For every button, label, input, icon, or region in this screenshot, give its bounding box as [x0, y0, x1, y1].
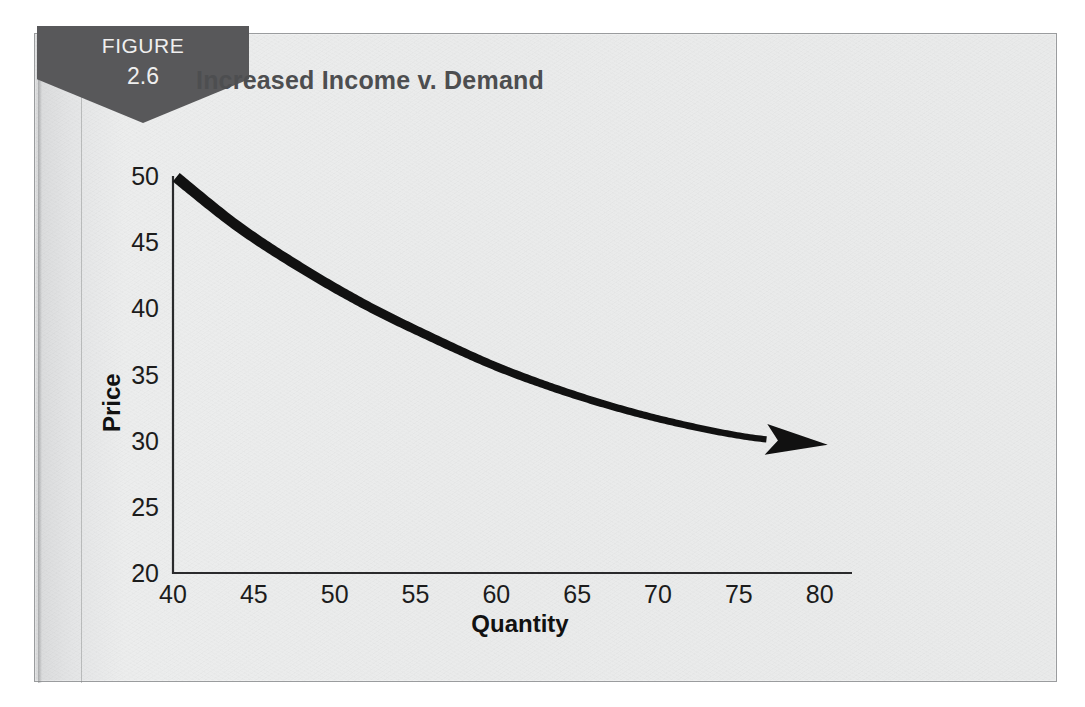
scan-crease-line: [81, 34, 82, 683]
chart-title: Increased Income v. Demand: [196, 66, 544, 95]
figure-panel: [34, 33, 1057, 682]
scan-edge-shadow: [38, 34, 42, 683]
figure-banner-word: FIGURE: [37, 26, 249, 56]
scanned-page: FIGURE 2.6 Increased Income v. Demand 20…: [0, 0, 1085, 707]
